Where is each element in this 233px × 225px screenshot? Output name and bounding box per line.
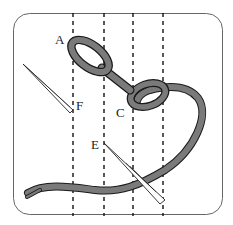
label-e: E (91, 137, 99, 152)
stitch-diagram: A F C E (0, 0, 233, 225)
label-c: C (116, 105, 125, 120)
label-f: F (76, 98, 83, 113)
label-a: A (55, 32, 65, 47)
